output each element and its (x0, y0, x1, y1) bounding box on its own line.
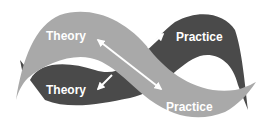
infinity-ribbon-graphic: Theory Practice Theory Practice (0, 0, 264, 131)
label-practice-top: Practice (176, 30, 223, 44)
theory-practice-diagram: Theory Practice Theory Practice (0, 0, 264, 131)
label-practice-bottom: Practice (166, 100, 213, 114)
label-theory-bottom: Theory (46, 83, 86, 97)
label-theory-top: Theory (46, 29, 86, 43)
